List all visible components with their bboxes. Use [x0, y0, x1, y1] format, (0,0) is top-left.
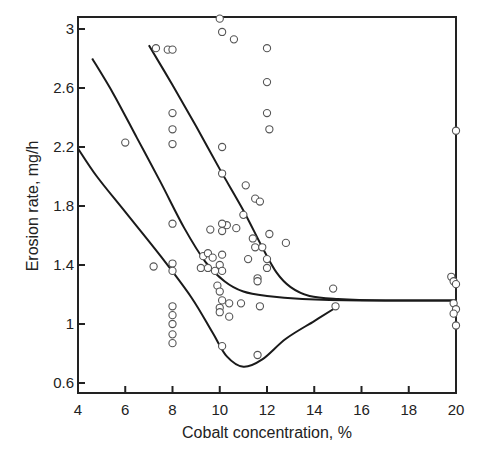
- y-axis: 0.611.41.82.22.63: [53, 20, 85, 391]
- x-tick-label: 8: [168, 401, 176, 418]
- y-tick-label: 1.8: [53, 197, 74, 214]
- data-point-marker: [219, 297, 226, 304]
- data-point-marker: [169, 312, 176, 319]
- x-tick-label: 4: [74, 401, 82, 418]
- y-tick-label: 2.6: [53, 79, 74, 96]
- data-point-marker: [256, 303, 263, 310]
- data-point-marker: [266, 126, 273, 133]
- data-point-marker: [226, 313, 233, 320]
- x-tick-label: 20: [448, 401, 465, 418]
- data-point-marker: [169, 126, 176, 133]
- data-point-marker: [252, 244, 259, 251]
- chart: 468101214161820 0.611.41.82.22.63 Cobalt…: [0, 0, 489, 467]
- data-point-marker: [219, 220, 226, 227]
- y-axis-title: Erosion rate, mg/h: [24, 141, 41, 272]
- data-point-marker: [169, 260, 176, 267]
- data-point-marker: [450, 310, 457, 317]
- plot-frame: [78, 17, 456, 393]
- x-axis-title: Cobalt concentration, %: [182, 424, 352, 441]
- data-point-marker: [209, 254, 216, 261]
- data-point-marker: [219, 28, 226, 35]
- data-point-marker: [169, 320, 176, 327]
- data-point-marker: [259, 244, 266, 251]
- data-point-marker: [237, 300, 244, 307]
- data-point-marker: [152, 45, 159, 52]
- data-point-marker: [216, 288, 223, 295]
- data-point-marker: [219, 143, 226, 150]
- data-point-marker: [256, 198, 263, 205]
- x-tick-label: 6: [121, 401, 129, 418]
- data-point-marker: [263, 256, 270, 263]
- data-point-marker: [169, 46, 176, 53]
- data-point-marker: [169, 331, 176, 338]
- data-point-marker: [263, 264, 270, 271]
- data-point-marker: [216, 15, 223, 22]
- fitted-curves: [78, 45, 456, 367]
- data-point-marker: [452, 281, 459, 288]
- data-point-marker: [169, 220, 176, 227]
- data-point-marker: [219, 227, 226, 234]
- data-point-marker: [216, 309, 223, 316]
- curve-line: [92, 59, 456, 301]
- data-point-marker: [254, 278, 261, 285]
- data-point-marker: [245, 256, 252, 263]
- x-tick-label: 18: [400, 401, 417, 418]
- data-point-marker: [169, 340, 176, 347]
- x-tick-label: 14: [306, 401, 323, 418]
- data-point-marker: [282, 239, 289, 246]
- data-point-marker: [452, 322, 459, 329]
- data-point-marker: [263, 109, 270, 116]
- data-point-marker: [249, 235, 256, 242]
- data-point-marker: [150, 263, 157, 270]
- x-axis: 468101214161820: [74, 386, 465, 418]
- data-point-marker: [226, 300, 233, 307]
- data-point-marker: [230, 36, 237, 43]
- data-point-marker: [332, 303, 339, 310]
- data-point-marker: [263, 79, 270, 86]
- data-point-marker: [219, 251, 226, 258]
- data-point-marker: [169, 109, 176, 116]
- data-points: [122, 15, 460, 359]
- curve-line: [149, 45, 456, 300]
- data-point-marker: [233, 225, 240, 232]
- data-point-marker: [204, 264, 211, 271]
- x-tick-label: 10: [211, 401, 228, 418]
- data-point-marker: [242, 182, 249, 189]
- data-point-marker: [330, 285, 337, 292]
- data-point-marker: [122, 139, 129, 146]
- y-tick-label: 3: [66, 20, 74, 37]
- data-point-marker: [169, 303, 176, 310]
- data-point-marker: [207, 226, 214, 233]
- y-tick-label: 1.4: [53, 256, 74, 273]
- y-tick-label: 1: [66, 315, 74, 332]
- data-point-marker: [169, 140, 176, 147]
- data-point-marker: [219, 343, 226, 350]
- data-point-marker: [254, 351, 261, 358]
- y-tick-label: 2.2: [53, 138, 74, 155]
- data-point-marker: [219, 170, 226, 177]
- data-point-marker: [169, 267, 176, 274]
- data-point-marker: [240, 211, 247, 218]
- data-point-marker: [219, 267, 226, 274]
- data-point-marker: [452, 127, 459, 134]
- data-point-marker: [197, 264, 204, 271]
- data-point-marker: [266, 230, 273, 237]
- x-tick-label: 16: [353, 401, 370, 418]
- x-tick-label: 12: [259, 401, 276, 418]
- data-point-marker: [263, 45, 270, 52]
- y-tick-label: 0.6: [53, 374, 74, 391]
